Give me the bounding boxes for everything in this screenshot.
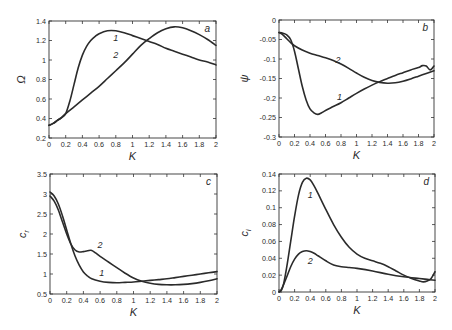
y-tick-label: -0.15 — [260, 74, 276, 83]
x-tick-label: 1.8 — [414, 139, 424, 148]
y-tick-label: 2 — [43, 230, 47, 239]
curve-2 — [279, 251, 435, 292]
x-tick-label: 1.6 — [179, 296, 189, 305]
y-axis-label: cr — [16, 229, 30, 238]
y-tick-label: 0.2 — [36, 134, 46, 143]
x-tick-label: 1 — [355, 139, 359, 148]
y-tick-label: 0.08 — [262, 220, 276, 229]
x-tick-label: 0 — [47, 140, 51, 149]
curve-label-2: 2 — [334, 55, 340, 65]
x-tick-label: 0.8 — [112, 296, 122, 305]
x-axis: 00.20.40.60.811.21.41.61.82K — [277, 20, 436, 161]
x-tick-label: 0.4 — [78, 296, 88, 305]
x-tick-label: 2 — [214, 140, 218, 149]
x-axis-label: K — [353, 149, 361, 161]
x-axis-label: K — [353, 304, 361, 316]
y-tick-label: -0.3 — [264, 133, 276, 142]
y-axis: 0.20.40.60.811.21.4 — [36, 17, 216, 143]
x-axis-label: K — [130, 306, 138, 318]
x-tick-label: 0 — [277, 139, 281, 148]
curve-label-2: 2 — [112, 50, 118, 60]
y-tick-label: 0.5 — [37, 290, 47, 299]
panel-a: 00.20.40.60.811.21.41.61.82K0.20.40.60.8… — [15, 17, 218, 163]
panel-b: 00.20.40.60.811.21.41.61.82K0-0.05-0.1-0… — [238, 16, 436, 162]
curve-label-1: 1 — [99, 268, 104, 278]
x-tick-label: 0 — [48, 296, 52, 305]
y-tick-label: -0.25 — [260, 113, 276, 122]
x-axis: 00.20.40.60.811.21.41.61.82K — [48, 174, 219, 318]
curve-label-1: 1 — [337, 92, 342, 102]
curve-1 — [49, 30, 216, 125]
x-tick-label: 1.6 — [178, 140, 188, 149]
panel-c: 00.20.40.60.811.21.41.61.82K0.511.522.53… — [16, 170, 219, 319]
x-tick-label: 1.6 — [398, 139, 408, 148]
curve-1 — [279, 178, 435, 292]
curve-label-2: 2 — [307, 256, 313, 266]
y-tick-label: 0.12 — [262, 186, 276, 195]
x-tick-label: 0.6 — [95, 296, 105, 305]
curve-2 — [50, 196, 217, 285]
x-tick-label: 1 — [131, 140, 135, 149]
x-tick-label: 1 — [355, 294, 359, 303]
y-tick-label: 0 — [272, 16, 276, 25]
x-tick-label: 0.2 — [290, 294, 300, 303]
curve-label-1: 1 — [308, 190, 313, 200]
x-tick-label: 0.4 — [77, 140, 87, 149]
x-tick-label: 0.2 — [61, 140, 71, 149]
y-tick-label: 0.02 — [262, 271, 276, 280]
x-tick-label: 2 — [433, 294, 437, 303]
x-tick-label: 0.8 — [336, 139, 346, 148]
x-tick-label: 0.6 — [94, 140, 104, 149]
x-tick-label: 1.4 — [383, 139, 393, 148]
plot-frame — [279, 174, 435, 292]
x-tick-label: 1.6 — [399, 294, 409, 303]
panel-letter: a — [204, 23, 210, 34]
x-tick-label: 1.2 — [367, 139, 377, 148]
y-tick-label: 1.5 — [37, 250, 47, 259]
y-tick-label: 2.5 — [37, 210, 47, 219]
x-tick-label: 0.2 — [62, 296, 72, 305]
y-tick-label: 0.4 — [36, 114, 46, 123]
y-tick-label: 1 — [42, 56, 46, 65]
y-tick-label: 0 — [272, 288, 276, 297]
x-tick-label: 1.4 — [383, 294, 393, 303]
panel-letter: d — [423, 176, 429, 187]
y-tick-label: 0.06 — [262, 237, 276, 246]
x-tick-label: 0.4 — [305, 139, 315, 148]
y-axis-label: ci — [238, 229, 252, 237]
y-tick-label: -0.2 — [264, 94, 276, 103]
y-tick-label: 1 — [43, 270, 47, 279]
panel-d: 00.20.40.60.811.21.41.61.82K00.020.040.0… — [238, 170, 437, 317]
x-tick-label: 0 — [277, 294, 281, 303]
x-tick-label: 0.6 — [321, 294, 331, 303]
x-tick-label: 2 — [432, 139, 436, 148]
y-tick-label: -0.05 — [260, 35, 276, 44]
x-tick-label: 1.2 — [144, 140, 154, 149]
y-tick-label: 0.6 — [36, 95, 46, 104]
y-axis-label: Ω — [15, 75, 27, 83]
y-axis: 0.511.522.533.5 — [37, 170, 217, 299]
x-tick-label: 1.4 — [162, 296, 172, 305]
x-axis-label: K — [129, 150, 137, 162]
curve-label-2: 2 — [97, 240, 103, 250]
y-tick-label: 3.5 — [37, 170, 47, 179]
panel-letter: c — [206, 176, 211, 187]
y-tick-label: 1.4 — [36, 17, 46, 26]
curve-2 — [279, 32, 434, 83]
x-tick-label: 1.4 — [161, 140, 171, 149]
x-tick-label: 1.2 — [145, 296, 155, 305]
plot-frame — [49, 21, 216, 138]
y-tick-label: 0.14 — [262, 170, 276, 179]
y-tick-label: 0.04 — [262, 254, 276, 263]
y-tick-label: -0.1 — [264, 55, 276, 64]
panel-letter: b — [422, 22, 428, 33]
x-tick-label: 0.6 — [321, 139, 331, 148]
x-tick-label: 1 — [132, 296, 136, 305]
x-tick-label: 0.2 — [290, 139, 300, 148]
x-axis: 00.20.40.60.811.21.41.61.82K — [277, 174, 437, 316]
curve-2 — [49, 27, 216, 126]
y-tick-label: 0.1 — [266, 203, 276, 212]
x-tick-label: 0.4 — [305, 294, 315, 303]
x-tick-label: 1.8 — [194, 140, 204, 149]
curve-1 — [50, 192, 217, 283]
